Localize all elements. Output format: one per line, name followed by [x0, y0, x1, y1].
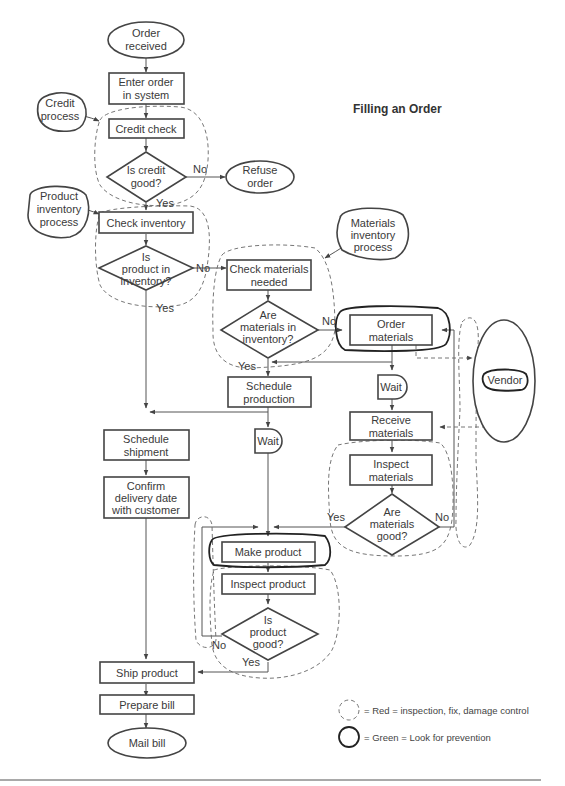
callout-product-inventory-process: Product inventory process: [28, 186, 89, 237]
svg-text:Is: Is: [264, 614, 273, 626]
node-mail-bill: Mail bill: [108, 728, 186, 758]
node-are-materials-good: Are materials good?: [345, 494, 439, 555]
svg-text:Schedule: Schedule: [246, 380, 292, 392]
node-confirm-delivery: Confirm delivery date with customer: [104, 477, 189, 518]
svg-text:inventory?: inventory?: [121, 275, 172, 287]
svg-text:Inspect product: Inspect product: [230, 578, 305, 590]
svg-text:Confirm: Confirm: [127, 480, 166, 492]
node-vendor: Vendor: [473, 320, 535, 442]
edge-label-product-good-yes: Yes: [242, 656, 260, 668]
svg-text:process: process: [40, 216, 79, 228]
edge-label-materials-good-yes: Yes: [327, 511, 345, 523]
node-is-credit-good: Is credit good?: [107, 152, 186, 202]
callout-credit-process: Credit process: [38, 93, 86, 131]
node-is-product-good: Is product good?: [222, 608, 318, 660]
svg-text:needed: needed: [251, 276, 288, 288]
edge-label-inventory-yes: Yes: [156, 302, 174, 314]
node-check-materials: Check materials needed: [227, 260, 311, 290]
svg-text:materials in: materials in: [240, 321, 296, 333]
svg-text:process: process: [354, 241, 393, 253]
svg-text:Is: Is: [142, 251, 151, 263]
svg-text:Credit check: Credit check: [115, 123, 177, 135]
svg-text:process: process: [41, 110, 80, 122]
edge-label-materials-inv-no: No: [322, 315, 336, 327]
node-are-materials-in-inventory: Are materials in inventory?: [221, 301, 318, 358]
edge-label-inventory-no: No: [196, 262, 210, 274]
node-make-product: Make product: [222, 542, 315, 562]
node-ship-product: Ship product: [100, 662, 194, 683]
node-wait-materials: Wait: [378, 375, 407, 399]
svg-text:Schedule: Schedule: [123, 433, 169, 445]
svg-text:Prepare bill: Prepare bill: [119, 699, 175, 711]
svg-text:Wait: Wait: [257, 435, 279, 447]
svg-text:Is credit: Is credit: [127, 164, 166, 176]
svg-text:Order: Order: [377, 318, 405, 330]
node-schedule-production: Schedule production: [228, 377, 311, 407]
legend-dashed-label: = Red = inspection, fix, damage control: [364, 705, 529, 716]
svg-text:order: order: [247, 177, 273, 189]
svg-text:Mail bill: Mail bill: [129, 737, 166, 749]
svg-text:Refuse: Refuse: [243, 164, 278, 176]
legend-solid-label: = Green = Look for prevention: [364, 732, 491, 743]
legend-dashed-circle-icon: [339, 700, 359, 720]
svg-text:inventory?: inventory?: [243, 333, 294, 345]
diagram-title: Filling an Order: [353, 102, 442, 116]
svg-text:delivery date: delivery date: [115, 492, 177, 504]
svg-text:production: production: [243, 393, 294, 405]
svg-text:Ship product: Ship product: [116, 667, 178, 679]
svg-text:Are: Are: [383, 506, 400, 518]
svg-text:inventory: inventory: [351, 229, 396, 241]
svg-text:good?: good?: [377, 530, 408, 542]
edge-label-product-good-no: No: [212, 639, 226, 651]
svg-text:in system: in system: [123, 89, 169, 101]
node-refuse-order: Refuse order: [226, 161, 294, 193]
svg-text:materials: materials: [369, 471, 414, 483]
svg-text:Materials: Materials: [351, 217, 396, 229]
node-check-inventory: Check inventory: [99, 212, 193, 233]
svg-text:Credit: Credit: [45, 97, 74, 109]
svg-text:materials: materials: [369, 427, 414, 439]
svg-text:Order: Order: [132, 27, 160, 39]
node-enter-order: Enter order in system: [109, 73, 184, 104]
node-credit-check: Credit check: [109, 119, 184, 138]
svg-text:Wait: Wait: [380, 381, 402, 393]
node-inspect-materials: Inspect materials: [350, 455, 432, 485]
svg-text:good?: good?: [253, 638, 284, 650]
node-schedule-shipment: Schedule shipment: [104, 430, 189, 460]
callout-materials-inventory-process: Materials inventory process: [337, 208, 408, 259]
svg-text:Check materials: Check materials: [230, 263, 309, 275]
svg-text:shipment: shipment: [124, 446, 169, 458]
svg-text:Make product: Make product: [235, 546, 302, 558]
svg-text:received: received: [125, 40, 167, 52]
node-order-received: Order received: [108, 22, 184, 58]
svg-text:Are: Are: [259, 309, 276, 321]
svg-text:inventory: inventory: [37, 203, 82, 215]
legend: = Red = inspection, fix, damage control …: [339, 700, 529, 747]
node-receive-materials: Receive materials: [350, 412, 432, 440]
node-wait-production: Wait: [255, 429, 282, 453]
edge-label-materials-good-no: No: [435, 511, 449, 523]
node-is-product-in-inventory: Is product in inventory?: [99, 246, 193, 290]
svg-text:Product: Product: [40, 190, 78, 202]
edge-label-materials-inv-yes: Yes: [238, 360, 256, 372]
svg-text:Check inventory: Check inventory: [107, 217, 186, 229]
node-prepare-bill: Prepare bill: [100, 695, 194, 714]
svg-text:with customer: with customer: [111, 504, 180, 516]
node-inspect-product: Inspect product: [222, 574, 315, 594]
edge-label-credit-no: No: [193, 163, 207, 175]
svg-text:Receive: Receive: [371, 414, 411, 426]
svg-text:product in: product in: [122, 263, 170, 275]
edge-label-credit-yes: Yes: [156, 197, 174, 209]
svg-text:materials: materials: [370, 518, 415, 530]
svg-text:Enter order: Enter order: [118, 76, 173, 88]
legend-solid-circle-icon: [339, 727, 359, 747]
svg-text:product: product: [250, 626, 287, 638]
svg-text:materials: materials: [369, 331, 414, 343]
flowchart-canvas: Filling an Order: [0, 0, 565, 786]
svg-text:Vendor: Vendor: [488, 374, 523, 386]
svg-text:Inspect: Inspect: [373, 458, 408, 470]
svg-text:good?: good?: [131, 177, 162, 189]
node-order-materials: Order materials: [350, 315, 432, 345]
